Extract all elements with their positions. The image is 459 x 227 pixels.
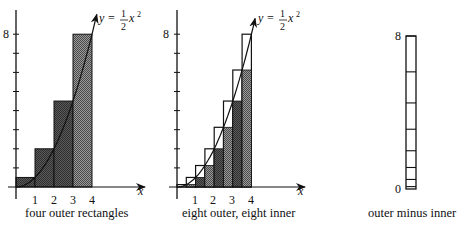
right-graph	[406, 36, 416, 189]
outer-rectangle	[16, 177, 35, 187]
left-x-axis-label: x	[137, 184, 144, 198]
svg-text:2: 2	[296, 10, 300, 19]
inner-rectangle	[224, 127, 233, 187]
middle-x-tick-3: 3	[229, 193, 235, 207]
right-y-tick-8: 8	[395, 29, 401, 43]
outer-rectangle	[73, 34, 92, 187]
middle-x-tick-1: 1	[192, 193, 198, 207]
left-function-label: y = 1 2 x 2	[98, 8, 141, 32]
inner-rectangle	[233, 101, 242, 187]
middle-graph	[169, 10, 305, 199]
inner-rectangle	[214, 149, 223, 187]
svg-text:1: 1	[280, 8, 285, 19]
svg-text:2: 2	[137, 10, 141, 19]
middle-x-tick-4: 4	[248, 193, 254, 207]
middle-y-tick-8: 8	[163, 27, 169, 41]
inner-rectangle	[242, 70, 251, 187]
middle-x-tick-2: 2	[210, 193, 216, 207]
inner-rectangle	[196, 177, 205, 187]
left-x-tick-4: 4	[89, 193, 95, 207]
svg-text:y =: y =	[98, 11, 115, 25]
left-x-tick-3: 3	[70, 193, 76, 207]
left-x-tick-1: 1	[32, 193, 38, 207]
svg-text:x: x	[128, 11, 135, 25]
right-y-tick-0: 0	[395, 182, 401, 196]
svg-text:y =: y =	[257, 11, 274, 25]
inner-rectangle	[205, 166, 214, 187]
right-caption: outer minus inner	[368, 206, 457, 220]
middle-function-label: y = 1 2 x 2	[257, 8, 300, 32]
riemann-sum-diagram: 8 1 2 3 4 x y = 1 2 x 2 four outer recta…	[0, 0, 459, 227]
middle-x-axis-label: x	[297, 184, 304, 198]
left-graph	[8, 10, 145, 199]
middle-caption: eight outer, eight inner	[182, 206, 296, 220]
left-y-tick-8: 8	[3, 27, 9, 41]
svg-text:x: x	[287, 11, 294, 25]
left-caption: four outer rectangles	[25, 206, 129, 220]
svg-text:1: 1	[121, 8, 126, 19]
difference-bar	[406, 36, 416, 189]
svg-text:2: 2	[121, 21, 126, 32]
left-x-tick-2: 2	[51, 193, 57, 207]
svg-text:2: 2	[280, 21, 285, 32]
